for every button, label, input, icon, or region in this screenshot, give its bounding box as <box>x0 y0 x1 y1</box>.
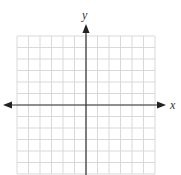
y-axis-label: y <box>81 8 88 22</box>
x-axis-left-arrow-icon <box>3 102 12 109</box>
y-axis-up-arrow-icon <box>83 24 90 33</box>
coordinate-plane: y x <box>0 0 181 175</box>
x-axis-label: x <box>169 98 176 112</box>
x-axis-right-arrow-icon <box>157 102 166 109</box>
